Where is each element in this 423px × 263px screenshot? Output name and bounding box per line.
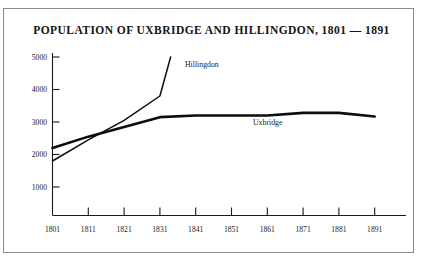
x-tick-label-1831: 1831 (152, 225, 167, 234)
x-tick-label-1851: 1851 (224, 225, 239, 234)
x-tick-label-1871: 1871 (296, 225, 311, 234)
y-tick-label-3000: 3000 (32, 118, 47, 127)
y-axis-ticks (53, 57, 60, 187)
x-tick-label-1891: 1891 (367, 225, 382, 234)
chart-annotations: HillingdonUxbridge (185, 60, 283, 128)
chart-plot-area: 10002000300040005000 1801181118211831184… (0, 0, 423, 263)
y-tick-label-4000: 4000 (32, 85, 47, 94)
series-label-hillingdon: Hillingdon (185, 60, 219, 69)
chart-axes (53, 53, 407, 216)
series-line-uxbridge (53, 113, 375, 148)
chart-series (53, 57, 375, 161)
x-axis-tick-labels: 1801181118211831184118511861187118811891 (45, 225, 383, 234)
x-tick-label-1861: 1861 (260, 225, 275, 234)
y-tick-label-5000: 5000 (32, 53, 47, 62)
x-tick-label-1811: 1811 (81, 225, 96, 234)
x-axis-ticks (88, 208, 374, 216)
x-tick-label-1841: 1841 (188, 225, 203, 234)
y-tick-label-1000: 1000 (32, 183, 47, 192)
y-tick-label-2000: 2000 (32, 150, 47, 159)
x-tick-label-1801: 1801 (45, 225, 60, 234)
series-line-hillingdon (53, 57, 171, 161)
x-tick-label-1881: 1881 (331, 225, 346, 234)
series-label-uxbridge: Uxbridge (253, 118, 283, 127)
y-axis-tick-labels: 10002000300040005000 (32, 53, 47, 192)
x-tick-label-1821: 1821 (117, 225, 132, 234)
figure: POPULATION OF UXBRIDGE AND HILLINGDON, 1… (0, 0, 423, 263)
